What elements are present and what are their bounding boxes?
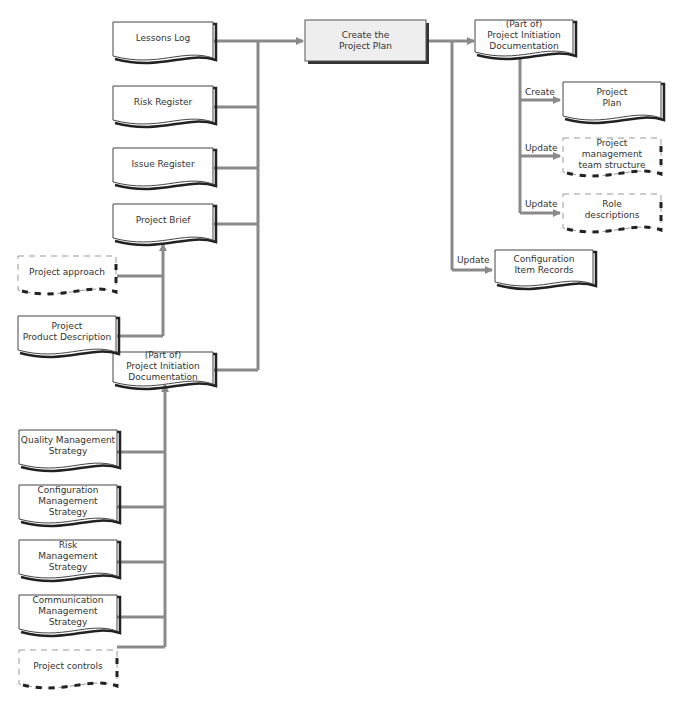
output-pid-label: (Part of) Project Initiation Documentati… [475, 20, 573, 50]
input-lessons-log-label: Lessons Log [113, 22, 213, 54]
output-configuration-item-records-label: Configuration Item Records [495, 250, 593, 280]
input-project-brief-label: Project Brief [113, 204, 213, 236]
pid-input-quality-management-strategy-label: Quality Management Strategy [19, 430, 117, 462]
input-issue-register-label: Issue Register [113, 148, 213, 180]
pid-input-risk-management-strategy-label: Risk Management Strategy [19, 540, 117, 572]
connectors [117, 41, 560, 647]
pid-input-configuration-management-strategy-label: Configuration Management Strategy [19, 485, 117, 517]
edge-label-project-plan: Create [525, 87, 555, 97]
edge-label-role-descriptions: Update [525, 199, 558, 209]
edge-label-configuration-item-records: Update [457, 255, 490, 265]
output-project-plan-label: Project Plan [563, 82, 661, 114]
pid-input-communication-management-strategy-label: Communication Management Strategy [19, 595, 117, 627]
input-pid-input-label: (Part of) Project Initiation Documentati… [113, 352, 213, 380]
process-label: Create the Project Plan [305, 20, 426, 61]
pid-input-project-controls-label: Project controls [19, 650, 117, 682]
brief-input-project-product-description-label: Project Product Description [18, 316, 116, 348]
input-risk-register-label: Risk Register [113, 86, 213, 118]
output-project-management-team-structure-label: Project management team structure [563, 138, 661, 170]
output-role-descriptions-label: Role descriptions [563, 194, 661, 226]
brief-input-project-approach-label: Project approach [18, 256, 116, 288]
edge-label-project-management-team-structure: Update [525, 143, 558, 153]
